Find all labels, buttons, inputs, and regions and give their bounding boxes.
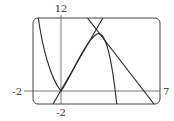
y-min-label: -2 (56, 107, 66, 118)
y-max-label: 12 (55, 3, 68, 14)
graph-plot: 12 -2 -2 7 (0, 0, 174, 121)
x-min-label: -2 (12, 86, 22, 97)
x-max-label: 7 (163, 86, 169, 97)
